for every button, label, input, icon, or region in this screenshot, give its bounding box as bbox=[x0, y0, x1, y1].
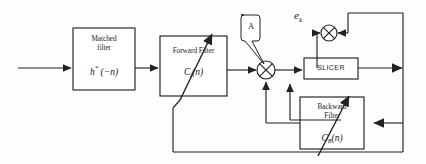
forward-filter-title: Forward Filter bbox=[161, 48, 226, 56]
matched-filter-label-line2: filter bbox=[76, 45, 132, 53]
matched-filter-equation: h* (−n) bbox=[76, 62, 132, 79]
matched-filter-eq-star: * bbox=[95, 64, 99, 72]
error-signal-subscript: k bbox=[299, 16, 302, 24]
matched-filter-eq-arg: (−n) bbox=[101, 67, 119, 77]
callout-a-label: A bbox=[241, 22, 261, 31]
dfe-block-diagram: Matched filter h* (−n) Forward Filter Cf… bbox=[0, 0, 426, 164]
error-signal-label: ek bbox=[294, 6, 324, 24]
backward-filter-label-line2: Filter bbox=[301, 113, 363, 121]
backward-filter-label-line1: Backward bbox=[301, 104, 363, 112]
slicer-label: SLICER bbox=[304, 64, 358, 71]
backward-filter-equation: CB(n) bbox=[301, 128, 363, 145]
backward-filter-eq-arg: (n) bbox=[332, 133, 343, 143]
error-bus-diag-join bbox=[173, 100, 180, 108]
forward-filter-equation: Cf(n) bbox=[161, 62, 226, 79]
matched-filter-label-line1: Matched bbox=[76, 36, 132, 44]
forward-filter-eq-arg: (n) bbox=[192, 67, 203, 77]
